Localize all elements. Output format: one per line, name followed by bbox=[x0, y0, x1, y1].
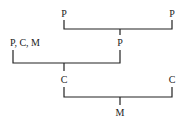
node-mid-right: P bbox=[117, 37, 123, 48]
node-top-right: P bbox=[169, 8, 175, 19]
merge-bracket-3 bbox=[64, 87, 172, 105]
merge-bracket-2 bbox=[13, 50, 120, 71]
node-bottom: M bbox=[116, 107, 125, 118]
node-top-left: P bbox=[61, 8, 67, 19]
node-low-left: C bbox=[61, 74, 68, 85]
merge-bracket-1 bbox=[64, 20, 172, 35]
node-mid-left: P, C, M bbox=[10, 37, 40, 48]
node-low-right: C bbox=[169, 74, 176, 85]
tree-diagram: P P P P, C, M C C M bbox=[0, 0, 183, 125]
